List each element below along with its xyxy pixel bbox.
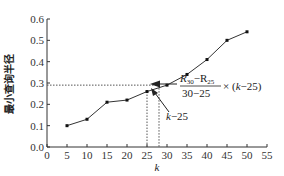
reference-lines xyxy=(47,85,159,147)
data-point xyxy=(106,101,109,104)
y-tick-label: 0.5 xyxy=(30,34,44,46)
line-chart: 0.00.10.20.30.40.50.6 051015202530354045… xyxy=(0,0,284,176)
y-axis-label: 最小查询半径 xyxy=(3,54,15,114)
x-tick-label: 0 xyxy=(44,149,50,161)
data-point xyxy=(86,118,89,121)
x-tick-label: 30 xyxy=(162,149,174,161)
y-tick-label: 0.2 xyxy=(30,98,44,110)
offset-label: k−25 xyxy=(166,110,189,122)
y-tick-label: 0.6 xyxy=(30,13,44,25)
series-line xyxy=(67,32,247,126)
data-point xyxy=(226,39,229,42)
x-tick-label: 45 xyxy=(222,149,234,161)
y-tick-label: 0.0 xyxy=(30,141,44,153)
data-point xyxy=(206,58,209,61)
data-point xyxy=(246,30,249,33)
x-tick-label: 40 xyxy=(202,149,214,161)
x-tick-label: 10 xyxy=(82,149,94,161)
x-tick-label: 25 xyxy=(142,149,154,161)
y-tick-label: 0.3 xyxy=(30,77,44,89)
x-axis-label: k xyxy=(155,161,161,173)
data-point xyxy=(146,90,149,93)
x-tick-label: 55 xyxy=(262,149,274,161)
x-tick-label: 15 xyxy=(102,149,114,161)
x-tick-label: 50 xyxy=(242,149,254,161)
y-tick-label: 0.4 xyxy=(30,56,44,68)
formula-denominator: 30−25 xyxy=(182,87,211,99)
x-tick-label: 35 xyxy=(182,149,194,161)
y-tick-label: 0.1 xyxy=(30,120,44,132)
data-point xyxy=(66,124,69,127)
x-tick-label: 20 xyxy=(122,149,134,161)
arrow-head-icon xyxy=(150,81,160,88)
data-point xyxy=(126,99,129,102)
data-series xyxy=(66,30,249,127)
formula-multiplier: × (k−25) xyxy=(223,80,262,93)
formula-numerator: R30−R25 xyxy=(179,72,215,86)
x-tick-label: 5 xyxy=(64,149,70,161)
